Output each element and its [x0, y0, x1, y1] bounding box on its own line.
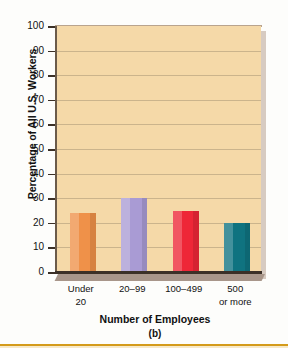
bar-3 [173, 211, 199, 273]
y-tick-label: 30 [2, 192, 44, 203]
gridline [57, 174, 261, 175]
y-tick-mark [48, 124, 55, 126]
bar-shading [245, 223, 251, 272]
y-tick-mark [48, 149, 55, 151]
bar-highlight [224, 223, 233, 272]
bar-shading [193, 211, 199, 273]
gridline [57, 149, 261, 150]
bar-chart-figure: Percentage of All U.S. Workers 100908070… [0, 0, 288, 348]
x-category-label-line: 500 [204, 283, 266, 296]
y-tick-mark [48, 75, 55, 77]
bar-fill [224, 223, 250, 272]
y-tick-mark [48, 223, 55, 225]
bar-highlight [70, 213, 79, 272]
axis-base-bevel [55, 274, 265, 281]
y-tick-label: 40 [2, 168, 44, 179]
gridline [57, 198, 261, 199]
y-tick-label: 80 [2, 69, 44, 80]
bar-2 [121, 198, 147, 272]
y-tick-mark [48, 26, 55, 28]
gridline [57, 75, 261, 76]
bar-highlight [173, 211, 182, 273]
gridline [57, 100, 261, 101]
x-axis-title: Number of Employees [40, 313, 270, 325]
plot-area [55, 26, 261, 272]
y-tick-label: 70 [2, 94, 44, 105]
bar-highlight [121, 198, 130, 272]
gridline [57, 51, 261, 52]
y-tick-mark [48, 174, 55, 176]
figure-caption: (b) [40, 328, 270, 339]
y-tick-mark [48, 198, 55, 200]
y-tick-label: 50 [2, 143, 44, 154]
bar-1 [70, 213, 96, 272]
x-category-label-line: or more [204, 296, 266, 309]
y-tick-mark [48, 100, 55, 102]
x-category-label-line: 20 [50, 296, 112, 309]
y-tick-label: 0 [2, 266, 44, 277]
y-tick-mark [48, 272, 55, 274]
bar-shading [90, 213, 96, 272]
y-tick-label: 60 [2, 118, 44, 129]
y-tick-label: 100 [2, 20, 44, 31]
y-tick-label: 10 [2, 241, 44, 252]
bar-fill [173, 211, 199, 273]
bar-4 [224, 223, 250, 272]
gridline [57, 124, 261, 125]
y-tick-mark [48, 247, 55, 249]
bar-shading [142, 198, 148, 272]
y-tick-label: 20 [2, 217, 44, 228]
bar-fill [121, 198, 147, 272]
y-tick-label: 90 [2, 45, 44, 56]
x-category-label: 500or more [204, 283, 266, 308]
bar-fill [70, 213, 96, 272]
y-tick-mark [48, 51, 55, 53]
